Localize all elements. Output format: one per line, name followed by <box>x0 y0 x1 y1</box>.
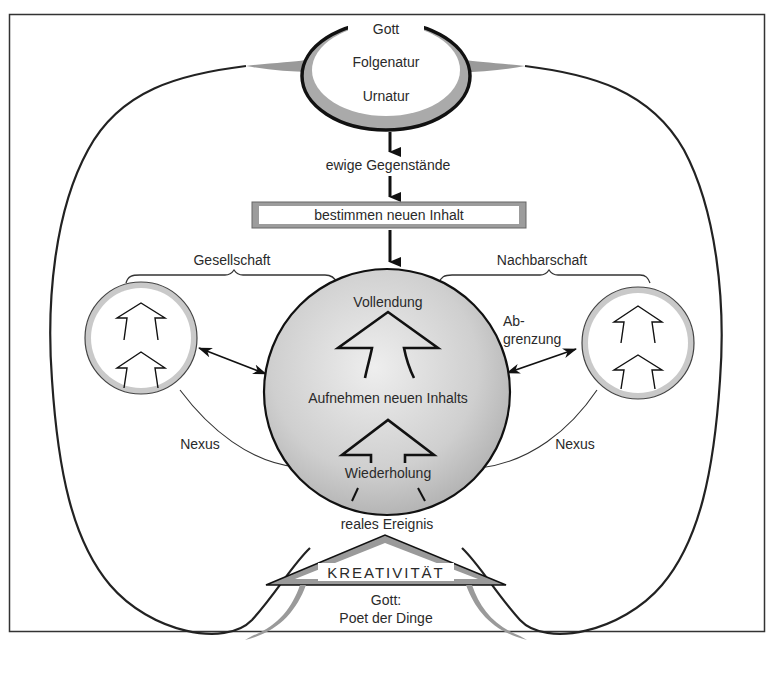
god-poet-line1: Gott: <box>371 592 401 608</box>
nexus-label-right: Nexus <box>555 436 595 452</box>
society-brace <box>126 270 337 283</box>
repetition-label: Wiederholung <box>345 465 431 481</box>
nexus-label-left: Nexus <box>180 436 220 452</box>
eternal-objects-label: ewige Gegenstände <box>326 157 451 173</box>
left-society-circle <box>85 282 197 394</box>
society-label: Gesellschaft <box>193 252 270 268</box>
double-arrow-right <box>507 349 576 373</box>
actual-event-label: reales Ereignis <box>341 516 434 532</box>
neighborhood-brace <box>439 270 650 283</box>
prehension-label: Aufnehmen neuen Inhalts <box>308 390 468 406</box>
satisfaction-label: Vollendung <box>353 294 422 310</box>
god-node: Gott Folgenatur Urnatur <box>246 18 525 130</box>
neighborhood-label: Nachbarschaft <box>497 252 587 268</box>
creativity-node: KREATIVITÄT Gott: Poet der Dinge <box>245 535 527 640</box>
god-poet-line2: Poet der Dinge <box>339 610 433 626</box>
diagram-canvas: Gott Folgenatur Urnatur ewige Gegenständ… <box>0 0 771 679</box>
primordial-nature-label: Urnatur <box>363 88 410 104</box>
right-neighborhood-circle <box>582 287 694 399</box>
boundary-label-line1: Ab- <box>503 313 525 329</box>
actual-occasion-circle: Vollendung Aufnehmen neuen Inhalts Wiede… <box>264 269 510 515</box>
determine-content-label: bestimmen neuen Inhalt <box>314 207 464 223</box>
double-arrow-left <box>199 348 266 374</box>
boundary-label-line2: grenzung <box>503 331 561 347</box>
consequent-nature-label: Folgenatur <box>353 54 420 70</box>
creativity-label: KREATIVITÄT <box>327 564 445 581</box>
determine-content-box: bestimmen neuen Inhalt <box>252 202 526 228</box>
god-title: Gott <box>373 21 400 37</box>
